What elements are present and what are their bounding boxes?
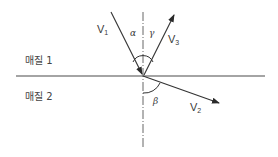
label-beta: β <box>152 96 158 106</box>
label-alpha: α <box>130 28 136 38</box>
label-v1: V1 <box>97 23 108 36</box>
label-medium-2: 매질 2 <box>25 91 53 102</box>
refraction-diagram: V1 V3 V2 α γ β 매질 1 매질 2 <box>0 0 278 157</box>
reflected-vector-v3 <box>144 15 174 75</box>
incident-vector-v1 <box>111 12 142 74</box>
label-v3: V3 <box>168 33 179 46</box>
label-medium-1: 매질 1 <box>25 55 53 66</box>
label-v2: V2 <box>190 101 201 114</box>
angle-arc-beta <box>143 83 160 93</box>
label-gamma: γ <box>149 28 155 38</box>
